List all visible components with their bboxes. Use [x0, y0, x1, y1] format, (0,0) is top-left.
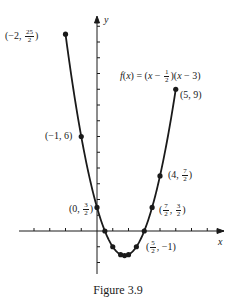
data-point: [63, 32, 68, 37]
data-point: [94, 205, 99, 210]
data-point: [150, 205, 155, 210]
label-point-5: (5, 9): [180, 90, 202, 100]
data-point: [79, 134, 84, 139]
plot-area: [0, 0, 236, 302]
data-point: [173, 87, 178, 92]
axis-ticks: [34, 26, 207, 262]
label-point-neg1: (−1, 6): [45, 131, 72, 141]
data-points: [63, 32, 178, 259]
data-point: [126, 252, 131, 257]
parabola-curve: [66, 34, 176, 255]
data-point: [134, 244, 139, 249]
label-point-4: (4, 72): [168, 168, 192, 183]
figure-caption: Figure 3.9: [0, 283, 236, 298]
x-axis-label: x: [218, 236, 222, 247]
label-point-7-2: (72, 32): [159, 203, 186, 218]
label-point-0: (0, 32): [69, 202, 93, 217]
function-label: f(x) = (x − 12)(x − 3): [120, 69, 201, 84]
data-point: [110, 244, 115, 249]
x-axis-arrow-icon: [217, 229, 224, 234]
axes: [19, 16, 224, 274]
label-point-neg2: (−2, 252): [5, 29, 38, 44]
data-point: [157, 173, 162, 178]
y-axis-label: y: [104, 14, 108, 25]
y-axis-arrow-icon: [95, 16, 100, 23]
label-point-5-2: (52, −1): [146, 240, 176, 255]
data-point: [142, 228, 147, 233]
data-point: [102, 228, 107, 233]
